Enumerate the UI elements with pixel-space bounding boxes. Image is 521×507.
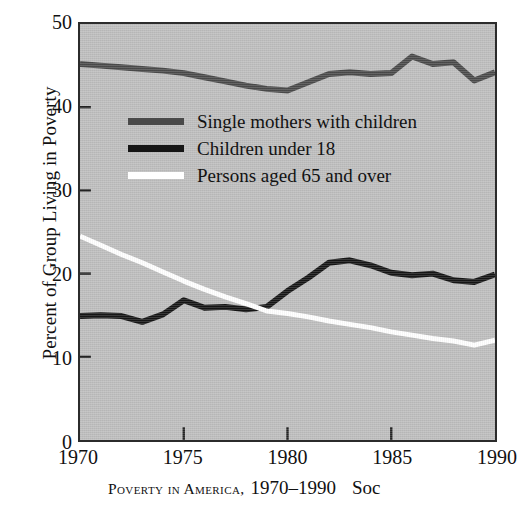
plot-svg <box>80 24 495 440</box>
y-tick-label: 10 <box>20 348 72 368</box>
x-axis-tick-labels: 19701975198019851990 <box>0 446 516 476</box>
x-tick-label: 1980 <box>248 446 328 468</box>
y-tick-label: 40 <box>20 96 72 116</box>
x-tick-label: 1990 <box>457 446 521 468</box>
legend-item: Persons aged 65 and over <box>128 162 458 189</box>
caption-title: Poverty in America, <box>108 480 245 497</box>
x-tick-label: 1975 <box>143 446 223 468</box>
figure-caption: Poverty in America,1970–1990Soc <box>0 475 516 507</box>
legend-item-label: Children under 18 <box>197 139 335 158</box>
legend-item-label: Persons aged 65 and over <box>197 166 391 185</box>
legend-item: Children under 18 <box>128 135 458 162</box>
x-tick-label: 1985 <box>352 446 432 468</box>
caption-trailing-text: Soc <box>352 477 381 498</box>
plot-area <box>78 22 497 442</box>
y-tick-label: 30 <box>20 180 72 200</box>
data-series-lines <box>80 56 495 345</box>
x-tick-label: 1970 <box>38 446 118 468</box>
y-tick-label: 20 <box>20 264 72 284</box>
y-axis-tick-labels: 50403020100 <box>10 0 72 507</box>
legend-item-label: Single mothers with children <box>197 112 417 131</box>
legend-color-swatch <box>128 172 184 179</box>
legend-item: Single mothers with children <box>128 108 458 135</box>
legend-color-swatch <box>128 145 184 152</box>
y-tick-label: 50 <box>20 12 72 32</box>
legend-color-swatch <box>128 118 184 125</box>
caption-years: 1970–1990 <box>251 477 337 498</box>
series-line <box>80 56 495 90</box>
chart-legend: Single mothers with childrenChildren und… <box>128 108 458 189</box>
